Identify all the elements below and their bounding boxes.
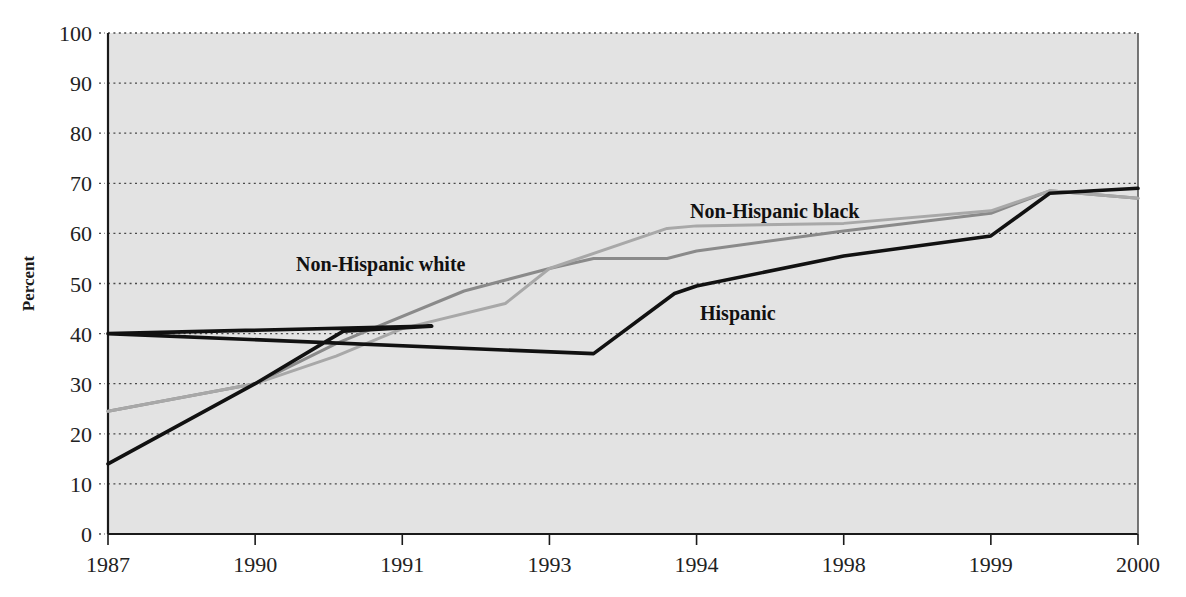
- series-label: Non-Hispanic black: [690, 200, 860, 223]
- chart-container: 0102030405060708090100 19871990199119931…: [0, 0, 1186, 597]
- y-tick-label: 100: [59, 21, 92, 46]
- x-tick-label: 1993: [527, 552, 571, 577]
- y-tick-label: 10: [70, 472, 92, 497]
- y-tick-label: 90: [70, 71, 92, 96]
- y-tick-label: 20: [70, 422, 92, 447]
- x-tick-label: 1991: [380, 552, 424, 577]
- x-tick-label: 1998: [822, 552, 866, 577]
- y-tick-label: 80: [70, 121, 92, 146]
- series-label: Hispanic: [700, 302, 776, 325]
- x-tick-label: 1994: [675, 552, 719, 577]
- y-axis-title: Percent: [19, 255, 38, 311]
- y-tick-label: 30: [70, 372, 92, 397]
- x-tick-label: 1990: [233, 552, 277, 577]
- y-tick-label: 60: [70, 221, 92, 246]
- x-tick-label: 2000: [1116, 552, 1160, 577]
- x-tick-label: 1987: [86, 552, 130, 577]
- y-tick-label: 0: [81, 522, 92, 547]
- y-tick-label: 50: [70, 272, 92, 297]
- y-tick-label: 70: [70, 171, 92, 196]
- y-tick-label: 40: [70, 322, 92, 347]
- series-label: Non-Hispanic white: [296, 253, 466, 276]
- x-tick-label: 1999: [969, 552, 1013, 577]
- line-chart: 0102030405060708090100 19871990199119931…: [0, 0, 1186, 597]
- y-axis-label: Percent: [19, 255, 38, 311]
